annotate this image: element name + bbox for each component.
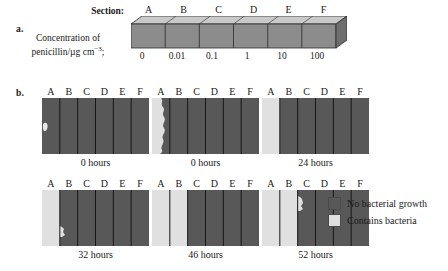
panel-3-letter-c: C <box>78 178 96 190</box>
concentration-value-f: 100 <box>299 51 335 61</box>
panel-4-letter-e: E <box>223 178 241 190</box>
panel-4-letter-d: D <box>206 178 224 190</box>
panel-2-caption: 24 hours <box>262 154 369 170</box>
section-caption: Section: <box>58 6 124 16</box>
concentration-caption-line2: penicillin/µg cm <box>32 47 95 57</box>
legend-label-no-growth: No bacterial growth <box>347 198 427 210</box>
part-b-diagram: b. A B C D E F 0 hours <box>0 78 448 271</box>
panel-3-plate <box>42 190 149 246</box>
panel-5-caption: 52 hours <box>262 246 369 262</box>
legend-swatch-no-growth-icon <box>328 197 341 210</box>
concentration-value-a: 0 <box>124 51 160 61</box>
panel-0-letter-e: E <box>113 86 131 98</box>
panel-5-bacteria-region <box>262 190 303 246</box>
panel-4-letter-c: C <box>188 178 206 190</box>
panel-3-letter-f: F <box>131 178 149 190</box>
panel-2-letter-f: F <box>351 86 369 98</box>
panel-5-letter-a: A <box>262 178 280 190</box>
panel-2-letter-d: D <box>316 86 334 98</box>
part-a-letter-a: A <box>131 4 166 15</box>
panel-4-caption: 46 hours <box>152 246 259 262</box>
panel-0-letters: A B C D E F <box>42 86 149 98</box>
panel-0-letter-c: C <box>78 86 96 98</box>
concentration-caption-line1: Concentration of <box>36 33 100 43</box>
panel-2-letter-b: B <box>280 86 298 98</box>
panel-3-growth-svg <box>42 190 149 246</box>
panel-3-letter-a: A <box>42 178 60 190</box>
legend-row-no-growth: No bacterial growth <box>328 195 448 212</box>
part-a-concentration-values: 0 0.01 0.1 1 10 100 <box>124 51 340 64</box>
panel-0-letter-b: B <box>60 86 78 98</box>
panel-0-hours-initial: A B C D E F 0 hours <box>42 86 149 170</box>
panel-1-plate <box>152 98 259 154</box>
concentration-value-b: 0.01 <box>159 51 195 61</box>
panel-46-hours: A B C D E F 46 hours <box>152 178 259 262</box>
panel-1-letters: A B C D E F <box>152 86 259 98</box>
panel-0-letter-d: D <box>96 86 114 98</box>
agar-bar-svg <box>131 16 347 50</box>
concentration-value-d: 1 <box>229 51 265 61</box>
part-b-label: b. <box>16 88 24 98</box>
panel-4-letters: A B C D E F <box>152 178 259 190</box>
panel-3-letter-b: B <box>60 178 78 190</box>
part-a-letter-f: F <box>306 4 341 15</box>
panel-0-letter-f: F <box>131 86 149 98</box>
panel-3-letter-e: E <box>113 178 131 190</box>
legend-row-contains-bacteria: Contains bacteria <box>328 212 448 229</box>
panel-2-plate <box>262 98 369 154</box>
concentration-caption: Concentration of penicillin/µg cm−3; <box>10 33 126 58</box>
panel-1-growth-svg <box>152 98 259 154</box>
panel-3-letter-d: D <box>96 178 114 190</box>
panel-2-letter-e: E <box>333 86 351 98</box>
part-a-letter-c: C <box>201 4 236 15</box>
panel-1-letter-e: E <box>223 86 241 98</box>
panel-1-caption: 0 hours <box>152 154 259 170</box>
panel-4-letter-b: B <box>170 178 188 190</box>
panel-0-plate <box>42 98 149 154</box>
panel-1-letter-c: C <box>188 86 206 98</box>
panel-32-hours: A B C D E F 32 hours <box>42 178 149 262</box>
panel-4-plate <box>152 190 259 246</box>
agar-bar-3d <box>131 16 347 50</box>
panel-2-letters: A B C D E F <box>262 86 369 98</box>
panel-4-growth-svg <box>152 190 259 246</box>
panel-5-letters: A B C D E F <box>262 178 369 190</box>
concentration-caption-suffix: ; <box>102 47 105 57</box>
panel-5-letter-e: E <box>333 178 351 190</box>
panel-0-caption: 0 hours <box>42 154 149 170</box>
concentration-value-c: 0.1 <box>194 51 230 61</box>
concentration-value-e: 10 <box>264 51 300 61</box>
panel-4-letter-a: A <box>152 178 170 190</box>
panel-0-letter-a: A <box>42 86 60 98</box>
legend-label-contains-bacteria: Contains bacteria <box>347 215 417 227</box>
part-a-letter-d: D <box>236 4 271 15</box>
panel-4-letter-f: F <box>241 178 259 190</box>
panel-1-letter-d: D <box>206 86 224 98</box>
panel-2-growth-svg <box>262 98 369 154</box>
panel-3-caption: 32 hours <box>42 246 149 262</box>
panel-1-letter-b: B <box>170 86 188 98</box>
panel-1-letter-a: A <box>152 86 170 98</box>
panel-5-letter-f: F <box>351 178 369 190</box>
panel-2-letter-a: A <box>262 86 280 98</box>
concentration-caption-exponent: −3 <box>94 45 101 53</box>
panel-2-letter-c: C <box>298 86 316 98</box>
panel-2-bacteria-region <box>262 98 280 154</box>
part-a-letter-b: B <box>166 4 201 15</box>
panel-5-letter-b: B <box>280 178 298 190</box>
legend-swatch-contains-bacteria-icon <box>328 214 341 227</box>
panel-1-letter-f: F <box>241 86 259 98</box>
panel-0-hours-wavy: A B C D E F 0 hours <box>152 86 259 170</box>
panel-24-hours: A B C D E F 24 hours <box>262 86 369 170</box>
part-a-diagram: a. Section: Concentration of penicillin/… <box>0 0 448 78</box>
panel-5-letter-c: C <box>298 178 316 190</box>
part-a-letter-e: E <box>271 4 306 15</box>
legend: No bacterial growth Contains bacteria <box>328 195 448 229</box>
panel-0-growth-svg <box>42 98 149 154</box>
panel-3-letters: A B C D E F <box>42 178 149 190</box>
panel-5-letter-d: D <box>316 178 334 190</box>
